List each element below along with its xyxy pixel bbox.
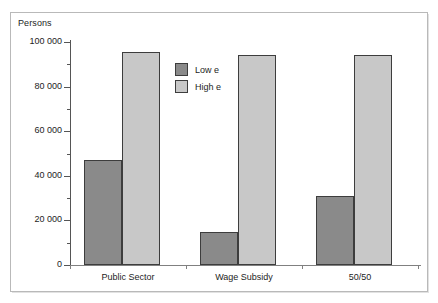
y-axis-title: Persons — [18, 18, 52, 28]
chart-legend: Low eHigh e — [175, 61, 245, 95]
x-axis-category-label: Wage Subsidy — [186, 272, 302, 282]
x-axis-category-label: 50/50 — [302, 272, 418, 282]
y-axis-tick-label: 60 000 — [6, 125, 62, 135]
legend-label: High e — [195, 82, 221, 92]
x-axis-tick — [186, 265, 187, 269]
bar-wage-subsidy-low-e — [200, 232, 238, 265]
bar-50-50-low-e — [316, 196, 354, 265]
legend-label: Low e — [195, 65, 219, 75]
x-axis-line — [70, 265, 421, 266]
legend-swatch-icon — [175, 80, 188, 93]
legend-swatch-icon — [175, 63, 188, 76]
bar-public-sector-low-e — [84, 160, 122, 265]
y-axis-tick-label: 0 — [6, 259, 62, 269]
legend-item: Low e — [175, 61, 245, 78]
x-axis-tick — [302, 265, 303, 269]
y-axis-tick-label: 100 000 — [6, 36, 62, 46]
y-axis-tick-label: 20 000 — [6, 214, 62, 224]
x-axis-tick — [418, 265, 419, 269]
x-axis-category-label: Public Sector — [70, 272, 186, 282]
legend-item: High e — [175, 78, 245, 95]
y-axis-tick-label: 80 000 — [6, 81, 62, 91]
y-axis-tick-label: 40 000 — [6, 170, 62, 180]
bar-public-sector-high-e — [122, 52, 160, 265]
bar-50-50-high-e — [354, 55, 392, 265]
x-axis-tick — [70, 265, 71, 269]
